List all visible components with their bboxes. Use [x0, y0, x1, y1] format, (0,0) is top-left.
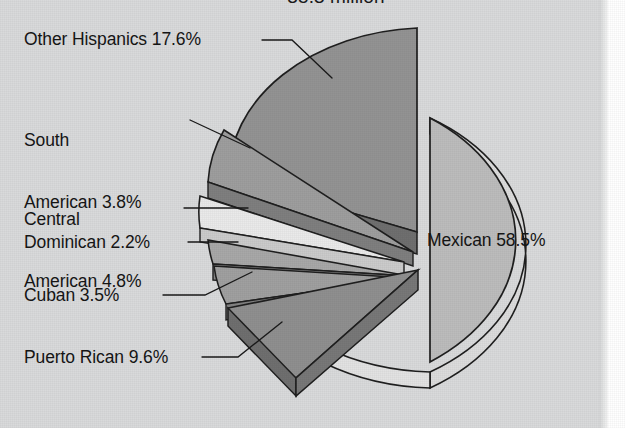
page-margin: [608, 0, 625, 428]
label-other-hispanics: Other Hispanics 17.6%: [24, 29, 201, 50]
label-dominican: Dominican 2.2%: [24, 232, 150, 253]
label-central-american-line1: Central: [24, 209, 141, 230]
label-mexican: Mexican 58.5%: [427, 230, 545, 251]
pie-chart-figure: 35.3 million: [0, 0, 625, 428]
label-south-american-line1: South: [24, 130, 141, 151]
chart-title: 35.3 million: [246, 0, 426, 8]
label-cuban: Cuban 3.5%: [24, 285, 119, 306]
page-edge-shadow: [599, 0, 608, 428]
label-puerto-rican: Puerto Rican 9.6%: [24, 347, 168, 368]
